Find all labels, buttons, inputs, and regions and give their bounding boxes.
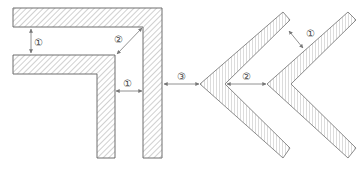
dimension-between-figures: ③ — [164, 71, 199, 84]
label-spacing-2-b: ② — [242, 71, 251, 82]
label-spacing-1-c: ① — [306, 28, 315, 39]
label-spacing-2-a: ② — [114, 34, 123, 45]
label-spacing-1-a: ① — [34, 37, 43, 48]
inner-l-shape — [13, 55, 115, 158]
dimension-horizontal-gap: ① — [31, 29, 43, 53]
spacing-diagram: ① ② ① ③ ① ② — [0, 0, 361, 172]
label-spacing-3: ③ — [177, 71, 186, 82]
dimension-diagonal-corner: ② — [114, 28, 142, 54]
dimension-vertical-gap: ① — [116, 78, 142, 91]
label-spacing-1-b: ① — [123, 78, 132, 89]
